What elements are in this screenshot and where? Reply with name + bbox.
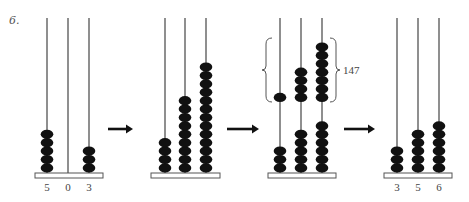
bead [200, 113, 213, 122]
abacus-start: 503 [35, 18, 103, 193]
digit-label: 0 [65, 181, 71, 193]
bead [433, 147, 446, 156]
bead [200, 105, 213, 114]
bead [41, 163, 54, 172]
bracket-label: 147 [343, 64, 360, 76]
bead [41, 155, 54, 164]
digit-label: 3 [86, 181, 92, 193]
bead [41, 147, 54, 156]
bead [412, 147, 425, 156]
bead [295, 93, 308, 102]
bead [412, 155, 425, 164]
bead [200, 130, 213, 139]
digit-label: 3 [394, 181, 400, 193]
bead [41, 138, 54, 147]
bead [295, 155, 308, 164]
left-bracket [262, 38, 272, 102]
bead [200, 155, 213, 164]
arrow-icon [344, 125, 375, 134]
abacus-step2 [151, 18, 220, 178]
arrow-icon [108, 125, 133, 134]
bead [295, 138, 308, 147]
diagram-canvas: 503147356 [0, 0, 469, 202]
bead [391, 155, 404, 164]
bead [200, 71, 213, 80]
bead [159, 155, 172, 164]
problem-number: 6. [9, 14, 20, 27]
bead [274, 155, 287, 164]
bead [179, 105, 192, 114]
bead [159, 163, 172, 172]
bead [83, 147, 96, 156]
bead [316, 68, 329, 77]
bead [295, 76, 308, 85]
bead [295, 68, 308, 77]
bead [433, 163, 446, 172]
bead [200, 121, 213, 130]
bead [412, 163, 425, 172]
bead [200, 138, 213, 147]
arrow-icon [227, 125, 259, 134]
abacus-base [268, 173, 336, 178]
abacus-base [151, 173, 220, 178]
bead [83, 155, 96, 164]
bead [316, 93, 329, 102]
bead [200, 163, 213, 172]
abacus-diagram: 6. 503147356 [0, 0, 469, 202]
bead [159, 147, 172, 156]
bead [412, 130, 425, 139]
bead [316, 76, 329, 85]
bead [179, 130, 192, 139]
abacus-base [35, 173, 103, 178]
bead [316, 84, 329, 93]
bead [412, 138, 425, 147]
bead [316, 59, 329, 68]
bead [295, 147, 308, 156]
bead [316, 51, 329, 60]
bead [295, 84, 308, 93]
bead [200, 79, 213, 88]
bead [179, 121, 192, 130]
bead [179, 155, 192, 164]
bead [179, 113, 192, 122]
bead [316, 121, 329, 130]
bead [159, 138, 172, 147]
bead [200, 63, 213, 72]
bead [316, 130, 329, 139]
bead [179, 138, 192, 147]
abacus-step3: 147 [262, 18, 360, 178]
bead [41, 130, 54, 139]
bead [433, 155, 446, 164]
bead [433, 138, 446, 147]
bead [316, 163, 329, 172]
bead [200, 96, 213, 105]
bead [391, 147, 404, 156]
bead [200, 147, 213, 156]
bead [83, 163, 96, 172]
bead [316, 42, 329, 51]
right-bracket [330, 38, 340, 102]
bead [179, 147, 192, 156]
bead [295, 163, 308, 172]
bead [316, 138, 329, 147]
bead [179, 163, 192, 172]
bead [179, 96, 192, 105]
bead [200, 88, 213, 97]
bracket-group: 147 [262, 38, 360, 102]
bead [316, 155, 329, 164]
digit-label: 5 [415, 181, 421, 193]
abacus-result: 356 [384, 18, 452, 193]
bead [391, 163, 404, 172]
bead [274, 163, 287, 172]
bead [433, 121, 446, 130]
abacus-base [384, 173, 452, 178]
bead [274, 93, 287, 102]
bead [316, 147, 329, 156]
bead [433, 130, 446, 139]
bead [274, 147, 287, 156]
bead [295, 130, 308, 139]
digit-label: 6 [436, 181, 442, 193]
digit-label: 5 [44, 181, 50, 193]
